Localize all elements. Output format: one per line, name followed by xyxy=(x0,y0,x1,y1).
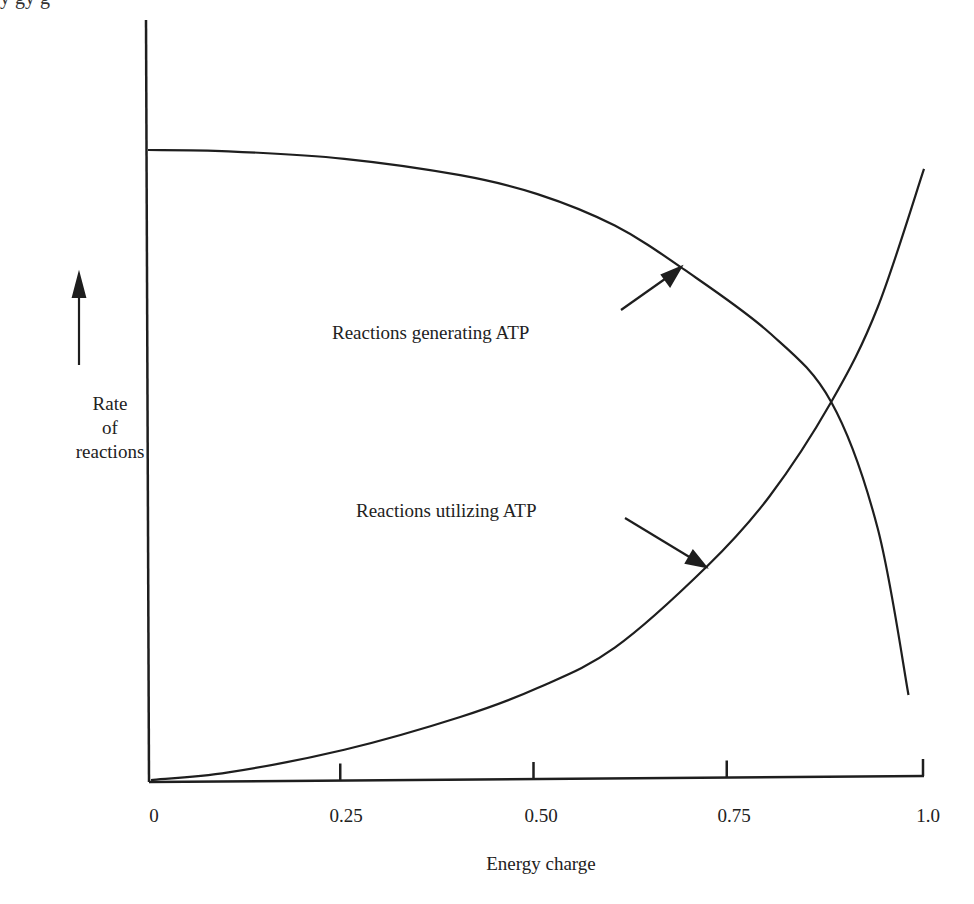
x-axis-label: Energy charge xyxy=(486,853,596,875)
annotation-generating-atp: Reactions generating ATP xyxy=(332,322,529,344)
x-tick-label-1-0: 1.0 xyxy=(916,805,940,827)
utilizing-arrow-head-icon xyxy=(686,551,706,567)
y-axis-label: Rate of reactions xyxy=(40,392,180,464)
x-tick-label-0-25: 0.25 xyxy=(329,805,362,827)
x-tick-label-0-50: 0.50 xyxy=(524,805,557,827)
y-axis-label-line-2: of xyxy=(40,416,180,440)
y-axis-label-line-3: reactions xyxy=(40,440,180,464)
y-axis-label-line-1: Rate xyxy=(40,392,180,416)
x-tick-label-0: 0 xyxy=(149,805,159,827)
annotation-utilizing-atp: Reactions utilizing ATP xyxy=(356,500,537,522)
utilizing-arrow-shaft xyxy=(625,518,696,561)
x-tick-label-0-75: 0.75 xyxy=(717,805,750,827)
axes xyxy=(146,20,924,782)
curve-generating-atp xyxy=(148,150,909,695)
curves xyxy=(148,150,924,780)
y-axis-arrow-up-icon xyxy=(73,274,85,297)
generating-arrow-head-icon xyxy=(662,267,681,286)
x-axis xyxy=(149,776,924,782)
curve-utilizing-atp xyxy=(151,169,924,780)
